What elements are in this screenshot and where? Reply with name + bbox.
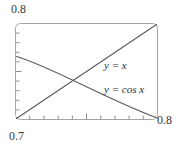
y-axis-max-label: 0.8 <box>11 2 26 17</box>
x-axis-ticks <box>30 114 144 120</box>
curve-y-equals-x <box>17 25 157 119</box>
curve-label-y-equals-cos-x: y = cos x <box>104 83 144 95</box>
figure-plot-y-equals-x-and-cos-x: 0.8 0.7 0.8 y = x y = cos x <box>0 0 182 149</box>
x-axis-min-label: 0.7 <box>9 129 24 144</box>
curve-label-y-equals-x: y = x <box>104 59 127 71</box>
plot-canvas <box>0 0 182 149</box>
y-axis-ticks <box>16 33 22 110</box>
x-axis-max-label: 0.8 <box>157 113 172 128</box>
